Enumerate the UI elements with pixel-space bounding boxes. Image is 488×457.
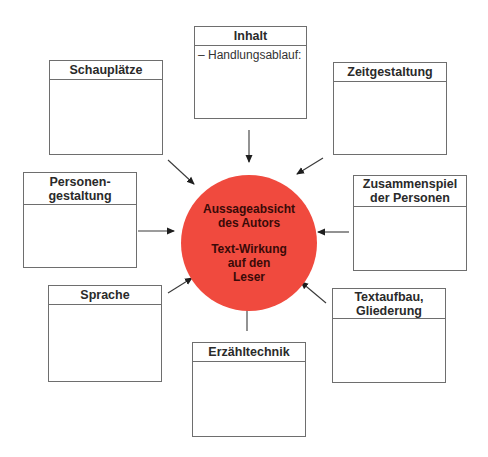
arrow-sprache <box>168 278 192 293</box>
box-schauplaetze-header: Schauplätze <box>50 61 162 80</box>
box-zusammenspiel: Zusammenspiel der Personen <box>353 175 467 271</box>
box-textaufbau: Textaufbau, Gliederung <box>332 288 446 383</box>
box-textaufbau-title-line1: Textaufbau, <box>354 290 423 304</box>
box-textaufbau-header: Textaufbau, Gliederung <box>333 289 445 319</box>
center-circle: Aussageabsicht des Autors Text-Wirkung a… <box>181 175 317 311</box>
center-line4: auf den <box>228 256 271 270</box>
box-zeitgestaltung-header: Zeitgestaltung <box>334 63 446 82</box>
arrow-textaufbau <box>301 282 326 303</box>
box-sprache-title: Sprache <box>80 288 129 302</box>
box-textaufbau-title-line2: Gliederung <box>356 304 422 318</box>
box-inhalt-body-text: – Handlungsablauf: <box>198 48 301 62</box>
mind-map-diagram: Inhalt – Handlungsablauf: Schauplätze Ze… <box>0 0 488 457</box>
center-line1: Aussageabsicht <box>203 202 295 216</box>
center-line2: des Autors <box>218 216 280 230</box>
box-sprache: Sprache <box>48 285 162 382</box>
box-erzaehltechnik: Erzähltechnik <box>192 342 306 437</box>
center-line3: Text-Wirkung <box>211 242 287 256</box>
arrow-schauplaetze <box>168 160 194 184</box>
box-zeitgestaltung-title: Zeitgestaltung <box>347 65 432 79</box>
arrow-zeitgestaltung <box>297 158 323 174</box>
box-personengestaltung: Personen- gestaltung <box>23 172 137 268</box>
box-erzaehltechnik-title: Erzähltechnik <box>208 345 289 359</box>
box-personengestaltung-title-line2: gestaltung <box>48 189 111 203</box>
box-inhalt-header: Inhalt <box>195 27 306 46</box>
box-sprache-header: Sprache <box>49 286 161 305</box>
box-personengestaltung-title-line1: Personen- <box>49 175 110 189</box>
box-erzaehltechnik-header: Erzähltechnik <box>193 343 305 362</box>
box-inhalt-body: – Handlungsablauf: <box>195 46 306 64</box>
box-schauplaetze-title: Schauplätze <box>70 63 143 77</box>
box-schauplaetze: Schauplätze <box>49 60 163 155</box>
center-line5: Leser <box>233 270 265 284</box>
box-zusammenspiel-header: Zusammenspiel der Personen <box>354 176 466 207</box>
box-zeitgestaltung: Zeitgestaltung <box>333 62 447 155</box>
box-zusammenspiel-title-line2: der Personen <box>370 191 450 205</box>
box-personengestaltung-header: Personen- gestaltung <box>24 173 136 205</box>
box-inhalt: Inhalt – Handlungsablauf: <box>194 26 307 119</box>
box-inhalt-title: Inhalt <box>234 29 267 43</box>
box-zusammenspiel-title-line1: Zusammenspiel <box>363 177 457 191</box>
